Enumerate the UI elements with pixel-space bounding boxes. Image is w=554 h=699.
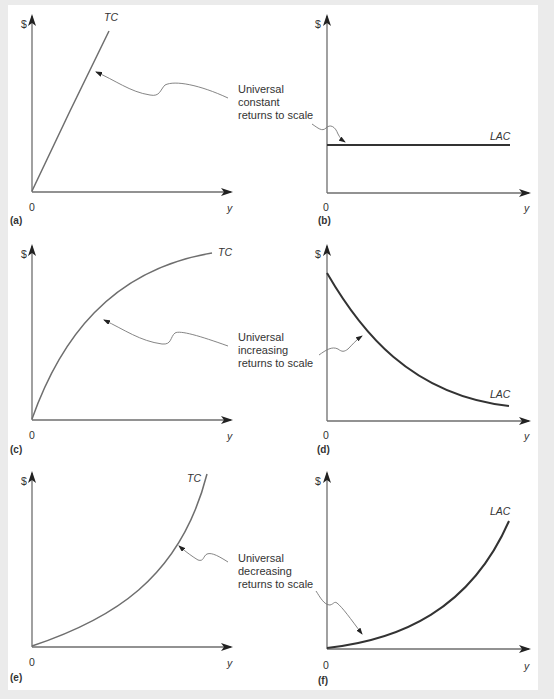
curve-label-c: TC: [218, 247, 232, 258]
x-axis-label-d: y: [524, 431, 529, 442]
tc-curve: [32, 474, 207, 646]
panel-b-chart: [312, 16, 529, 193]
origin-label-e: 0: [29, 657, 35, 668]
lac-curve: [327, 521, 509, 648]
annotation-leader-line: [319, 336, 362, 355]
tc-curve: [32, 31, 109, 191]
caption-d: (d): [317, 445, 330, 455]
panel-f-chart: [316, 473, 529, 649]
origin-label-f: 0: [323, 660, 329, 671]
origin-label-c: 0: [29, 430, 35, 441]
curve-label-d: LAC: [490, 389, 510, 400]
annotation-leader-line: [104, 320, 228, 346]
panel-c-chart: [32, 246, 231, 420]
y-axis-label-d: $: [315, 249, 321, 260]
x-axis-label-e: y: [227, 658, 232, 669]
origin-label-a: 0: [29, 202, 35, 213]
annotation-decreasing-returns: Universal decreasing returns to scale: [238, 552, 313, 591]
x-axis-label-c: y: [227, 431, 232, 442]
annotation-leader-line: [179, 546, 228, 562]
y-axis-label-e: $: [21, 476, 27, 487]
x-axis-label-a: y: [227, 203, 232, 214]
tc-curve: [32, 253, 212, 419]
curve-label-a: TC: [104, 12, 118, 23]
x-axis-label-f: y: [524, 661, 529, 672]
curve-label-e: TC: [187, 473, 201, 484]
y-axis-label-c: $: [21, 249, 27, 260]
annotation-constant-returns: Universal constant returns to scale: [238, 83, 313, 122]
y-axis-label-b: $: [315, 19, 321, 30]
caption-a: (a): [10, 216, 22, 226]
caption-f: (f): [318, 676, 328, 686]
origin-label-b: 0: [323, 202, 329, 213]
annotation-leader-line: [96, 72, 228, 98]
lac-curve: [327, 273, 509, 406]
x-axis-label-b: y: [524, 203, 529, 214]
annotation-increasing-returns: Universal increasing returns to scale: [238, 331, 313, 370]
curve-label-b: LAC: [490, 131, 510, 142]
panel-e-chart: [32, 473, 231, 647]
caption-e: (e): [10, 673, 22, 683]
y-axis-label-a: $: [21, 19, 27, 30]
annotation-leader-line: [312, 124, 345, 142]
panel-a-chart: [32, 16, 231, 192]
caption-c: (c): [10, 445, 22, 455]
annotation-leader-line: [316, 591, 362, 634]
curve-label-f: LAC: [490, 506, 510, 517]
origin-label-d: 0: [323, 430, 329, 441]
caption-b: (b): [318, 216, 331, 226]
y-axis-label-f: $: [315, 476, 321, 487]
